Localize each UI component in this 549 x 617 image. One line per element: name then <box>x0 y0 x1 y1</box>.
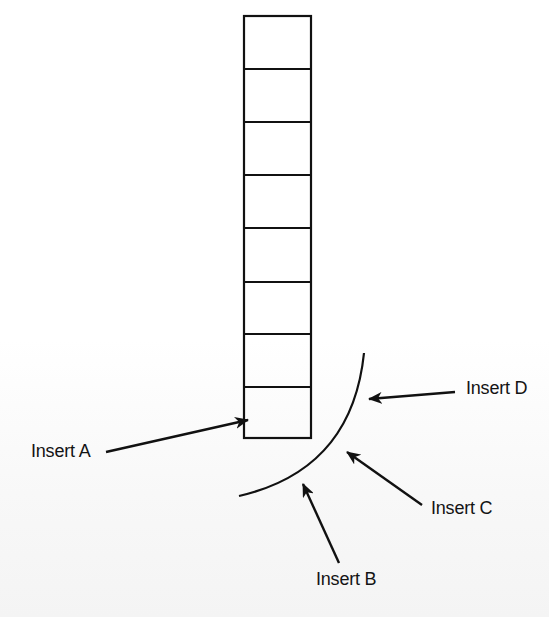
arrow-insert-d <box>369 392 455 399</box>
label-insert-b: Insert B <box>316 570 376 588</box>
arrow-insert-c <box>347 452 422 505</box>
label-insert-d: Insert D <box>466 379 527 397</box>
label-insert-a: Insert A <box>31 442 90 460</box>
insertion-curve <box>239 353 364 496</box>
arrow-insert-b <box>303 484 339 563</box>
stack <box>244 16 311 438</box>
arrow-insert-a <box>106 420 248 452</box>
diagram-canvas <box>0 0 549 617</box>
label-insert-c: Insert C <box>431 499 492 517</box>
